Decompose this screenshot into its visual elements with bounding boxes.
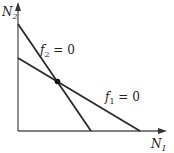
x-axis-label: N1 xyxy=(150,137,167,153)
f2-label: f2 = 0 xyxy=(39,43,75,59)
x-axis-arrow-icon xyxy=(158,128,167,134)
y-axis-arrow-icon xyxy=(15,2,21,11)
nullcline-diagram: N2 N1 f2 = 0 f1 = 0 xyxy=(0,0,174,153)
y-axis-label: N2 xyxy=(1,5,18,21)
f1-label: f1 = 0 xyxy=(104,90,140,106)
equilibrium-point xyxy=(55,79,61,85)
nullcline-f2 xyxy=(18,24,91,131)
